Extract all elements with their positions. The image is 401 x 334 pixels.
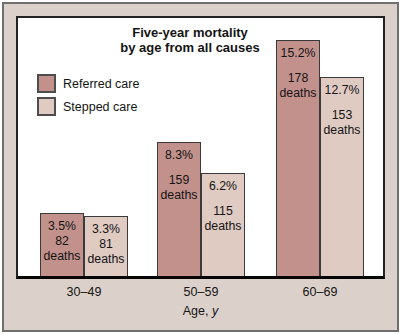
bar-deaths-word: deaths [158, 188, 200, 203]
x-tick-label-50-59: 50–59 [184, 285, 219, 299]
legend: Referred careStepped care [37, 74, 139, 120]
x-axis-title: Age, y [16, 304, 385, 318]
bar-group-60-69: 15.2%178deaths12.7%153deaths [276, 40, 364, 276]
bar-percent-label: 6.2% [202, 179, 244, 194]
bar-percent-label: 12.7% [321, 83, 363, 98]
bar-deaths-word: deaths [85, 252, 127, 267]
bar-deaths-word: deaths [202, 219, 244, 234]
bar-deaths-label: 178deaths [277, 71, 319, 101]
bar-deaths-label: 115deaths [202, 204, 244, 234]
x-tick-label-30-49: 30–49 [67, 285, 102, 299]
bar-stepped-care-60-69: 12.7%153deaths [320, 77, 364, 276]
bar-deaths-count: 153 [321, 108, 363, 123]
bar-deaths-label: 81deaths [85, 237, 127, 267]
bar-referred-care-30-49: 3.5%82deaths [40, 213, 84, 276]
bar-stepped-care-30-49: 3.3%81deaths [84, 216, 128, 276]
figure-matte-frame: Five-year mortality by age from all caus… [2, 2, 399, 332]
bar-percent-label: 3.5% [41, 219, 83, 234]
x-tick-label-60-69: 60–69 [303, 285, 338, 299]
bar-referred-care-50-59: 8.3%159deaths [157, 142, 201, 276]
mortality-figure: Five-year mortality by age from all caus… [0, 0, 401, 334]
plot-area: Five-year mortality by age from all caus… [16, 16, 385, 279]
legend-swatch-stepped-care [37, 97, 56, 116]
bar-deaths-label: 153deaths [321, 108, 363, 138]
bar-deaths-count: 178 [277, 71, 319, 86]
x-axis-title-variable: y [212, 304, 218, 318]
chart-title: Five-year mortality by age from all caus… [120, 25, 259, 55]
bar-percent-label: 3.3% [85, 222, 127, 237]
bar-deaths-count: 81 [85, 237, 127, 252]
bar-percent-label: 8.3% [158, 148, 200, 163]
bar-deaths-count: 159 [158, 173, 200, 188]
bar-deaths-label: 82deaths [41, 234, 83, 264]
chart-title-line1: Five-year mortality [120, 25, 259, 40]
bar-deaths-word: deaths [321, 123, 363, 138]
legend-label-referred-care: Referred care [63, 77, 139, 91]
bar-stepped-care-50-59: 6.2%115deaths [201, 173, 245, 276]
legend-item-stepped-care: Stepped care [37, 97, 139, 116]
x-axis-title-text: Age, [183, 304, 209, 318]
bar-deaths-count: 82 [41, 234, 83, 249]
bar-referred-care-60-69: 15.2%178deaths [276, 40, 320, 276]
bar-deaths-label: 159deaths [158, 173, 200, 203]
bar-group-30-49: 3.5%82deaths3.3%81deaths [40, 213, 128, 276]
bar-deaths-word: deaths [41, 249, 83, 264]
bar-percent-label: 15.2% [277, 46, 319, 61]
bar-deaths-word: deaths [277, 86, 319, 101]
legend-swatch-referred-care [37, 74, 56, 93]
chart-title-line2: by age from all causes [120, 40, 259, 55]
bar-group-50-59: 8.3%159deaths6.2%115deaths [157, 142, 245, 276]
legend-item-referred-care: Referred care [37, 74, 139, 93]
x-axis-labels: 30–4950–5960–69 [16, 285, 385, 301]
bar-deaths-count: 115 [202, 204, 244, 219]
legend-label-stepped-care: Stepped care [63, 100, 137, 114]
